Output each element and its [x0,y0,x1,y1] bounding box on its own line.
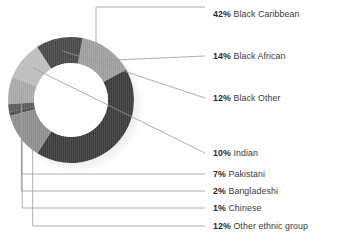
legend-percent: 12% [213,93,231,103]
legend-label: Black African [233,51,285,61]
legend-percent: 1% [213,203,226,213]
legend-label: Other ethnic group [233,221,308,231]
legend-label: Black Caribbean [233,9,299,19]
legend-percent: 12% [213,221,231,231]
donut-chart-svg [0,0,341,241]
legend-item-indian[interactable]: 10% Indian [213,148,258,158]
legend-item-other-ethnic-group[interactable]: 12% Other ethnic group [213,221,308,231]
legend-percent: 2% [213,186,226,196]
legend-item-black-other[interactable]: 12% Black Other [213,93,280,103]
legend-percent: 7% [213,169,226,179]
legend-label: Black Other [233,93,280,103]
legend-label: Chinese [228,203,261,213]
legend-label: Indian [233,148,258,158]
legend-item-bangladeshi[interactable]: 2% Bangladeshi [213,186,278,196]
legend-percent: 10% [213,148,231,158]
legend-percent: 14% [213,51,231,61]
legend-item-chinese[interactable]: 1% Chinese [213,203,261,213]
legend-item-pakistani[interactable]: 7% Pakistani [213,169,265,179]
legend-item-black-african[interactable]: 14% Black African [213,51,286,61]
legend-label: Bangladeshi [228,186,278,196]
legend-label: Pakistani [228,169,265,179]
donut-chart-figure: 42% Black Caribbean 14% Black African 12… [0,0,341,241]
legend-percent: 42% [213,9,231,19]
legend-item-black-caribbean[interactable]: 42% Black Caribbean [213,9,299,19]
